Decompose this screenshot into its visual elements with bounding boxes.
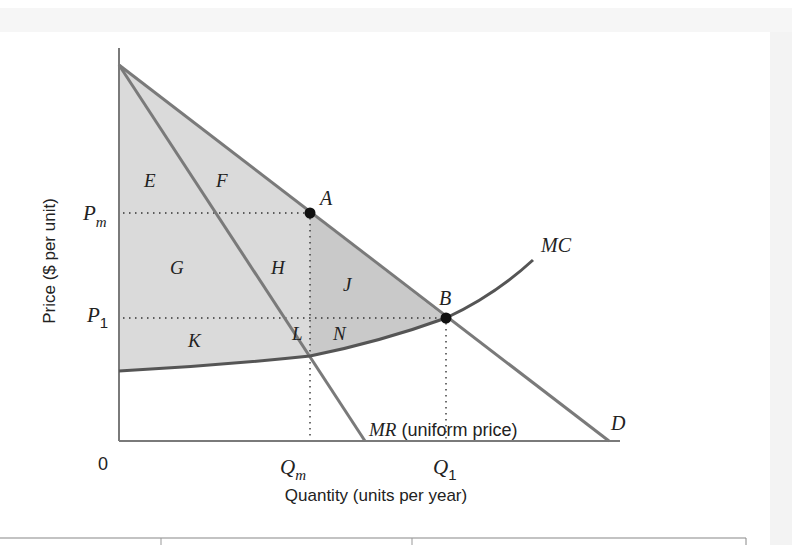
point-a-label: A [318, 187, 333, 209]
mr-label-suffix: (uniform price) [396, 420, 517, 440]
q1-sub: 1 [448, 466, 456, 483]
point-b-label: B [439, 287, 451, 309]
region-label-e: E [143, 170, 156, 191]
y-tick-pm: Pm [82, 201, 107, 230]
point-b-marker [441, 313, 452, 324]
p1-sub: 1 [100, 314, 108, 331]
chart-figure: E F G H J K L N A B MC D MR (uniform pri… [0, 0, 792, 545]
region-label-l: L [291, 323, 303, 344]
x-tick-q1: Q1 [433, 455, 457, 483]
pm-sub: m [96, 214, 107, 230]
origin-label: 0 [98, 454, 108, 474]
qm-main: Q [280, 455, 295, 479]
mr-curve-label: MR (uniform price) [368, 419, 517, 440]
region-label-n: N [332, 323, 347, 344]
x-tick-qm: Qm [280, 455, 306, 483]
shaded-area [119, 65, 446, 371]
point-a-marker [305, 208, 316, 219]
demand-curve-label: D [610, 412, 626, 434]
region-label-g: G [170, 257, 184, 278]
x-axis-title: Quantity (units per year) [285, 486, 467, 505]
qm-sub: m [295, 467, 306, 483]
mc-curve-label: MC [540, 234, 572, 256]
pm-main: P [82, 201, 96, 225]
mr-label-main: MR [368, 419, 397, 440]
y-axis-title: Price ($ per unit) [40, 198, 59, 324]
q1-main: Q [433, 455, 448, 479]
region-label-k: K [187, 330, 202, 351]
region-label-h: H [270, 257, 286, 278]
p1-main: P [86, 303, 100, 327]
bottom-table-border [0, 538, 746, 545]
region-label-f: F [215, 170, 228, 191]
shaded-region-j-n [310, 213, 446, 356]
y-tick-p1: P1 [86, 303, 108, 331]
